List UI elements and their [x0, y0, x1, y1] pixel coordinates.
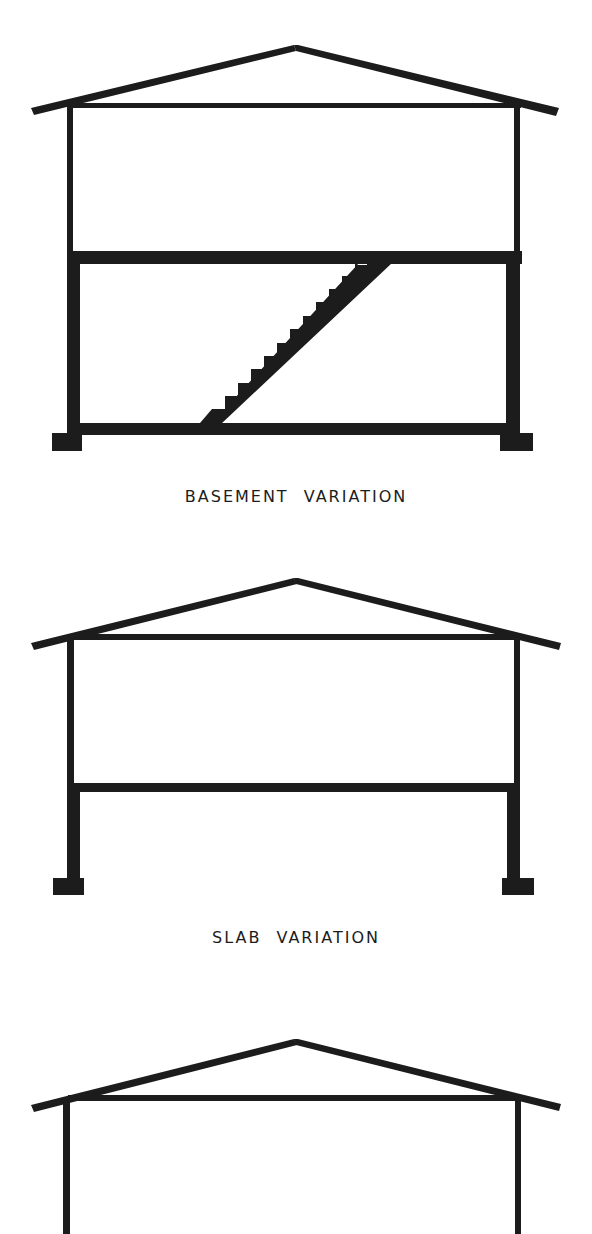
slab-variation-caption: SLAB VARIATION	[0, 928, 592, 947]
basement-wall-left	[67, 262, 80, 434]
basement-floor-slab	[67, 423, 520, 435]
ceiling-joist	[68, 634, 521, 640]
footing-right	[500, 433, 533, 451]
wall-right	[515, 1097, 521, 1234]
main-floor	[67, 251, 522, 264]
foundation-wall-left	[67, 788, 80, 880]
upper-wall-right	[514, 635, 520, 785]
upper-wall-left	[67, 635, 74, 785]
basement-stair-stringer	[200, 262, 392, 424]
slab-variation-section: SLAB VARIATION	[0, 560, 592, 980]
upper-wall-right	[514, 104, 520, 254]
basement-variation-caption: BASEMENT VARIATION	[0, 487, 592, 506]
foundation-wall-right	[507, 788, 520, 880]
main-floor	[67, 783, 520, 792]
upper-wall-left	[67, 104, 73, 254]
third-house-drawing	[0, 1000, 592, 1234]
wall-left	[63, 1097, 70, 1234]
ceiling-joist	[68, 1095, 521, 1101]
footing-left	[52, 433, 82, 451]
basement-variation-section: BASEMENT VARIATION	[0, 0, 592, 540]
ceiling-joist	[68, 103, 521, 108]
basement-house-drawing	[0, 0, 592, 470]
third-variation-section	[0, 1000, 592, 1234]
footing-right	[502, 878, 534, 895]
basement-wall-right	[506, 262, 520, 434]
roof-left-slope	[31, 1039, 297, 1112]
footing-left	[53, 878, 84, 895]
slab-house-drawing	[0, 560, 592, 920]
